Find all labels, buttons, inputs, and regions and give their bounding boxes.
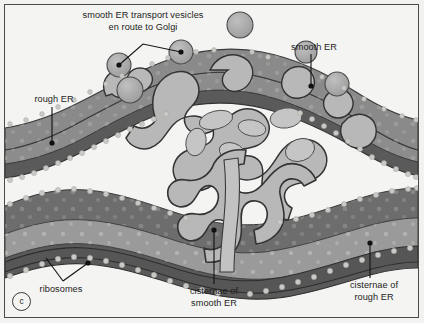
label-rough-er: rough ER xyxy=(25,94,83,106)
leader-ribosomes-b xyxy=(63,263,88,281)
vesicle xyxy=(325,72,349,96)
er-diagram-figure: smooth ER transport vesicles en route to… xyxy=(0,0,424,323)
er-diagram-canvas xyxy=(0,0,424,323)
er-structures-group xyxy=(5,12,420,299)
panel-letter-badge: c xyxy=(12,292,31,311)
vesicle xyxy=(117,77,143,103)
label-cisternae-rough-er: cisternae of rough ER xyxy=(336,280,412,303)
vesicle xyxy=(227,12,253,38)
label-smooth-er: smooth ER xyxy=(283,42,345,54)
label-ribosomes: ribosomes xyxy=(28,284,94,296)
label-cisternae-smooth-er: cisternae of smooth ER xyxy=(176,286,252,309)
label-transport-vesicles: smooth ER transport vesicles en route to… xyxy=(69,10,217,33)
